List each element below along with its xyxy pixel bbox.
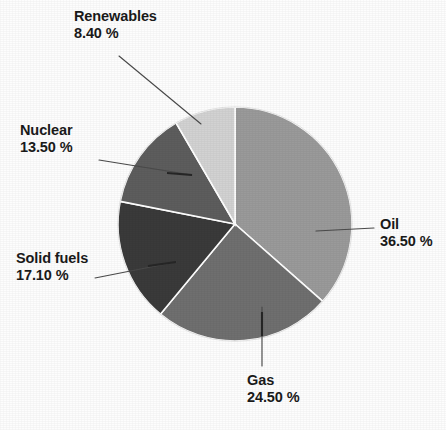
pie-label-renewables-name: Renewables (74, 8, 157, 25)
pie-chart-canvas (0, 0, 446, 430)
pie-label-gas-percent: 24.50 % (247, 389, 300, 406)
pie-label-oil-percent: 36.50 % (380, 233, 433, 250)
pie-label-gas: Gas 24.50 % (247, 372, 300, 406)
pie-label-nuclear-percent: 13.50 % (20, 139, 73, 156)
pie-label-nuclear-name: Nuclear (20, 122, 73, 139)
pie-label-nuclear: Nuclear 13.50 % (20, 122, 73, 156)
pie-label-oil: Oil 36.50 % (380, 216, 433, 250)
pie-label-solid-fuels-name: Solid fuels (16, 250, 88, 267)
pie-label-solid-fuels: Solid fuels 17.10 % (16, 250, 88, 284)
pie-label-solid-fuels-percent: 17.10 % (16, 267, 88, 284)
pie-label-renewables-percent: 8.40 % (74, 25, 157, 42)
leader-line-renewables (119, 56, 201, 124)
pie-label-oil-name: Oil (380, 216, 433, 233)
pie-slices (118, 107, 352, 341)
pie-label-gas-name: Gas (247, 372, 300, 389)
pie-chart-figure: Renewables 8.40 % Nuclear 13.50 % Solid … (0, 0, 446, 430)
pie-label-renewables: Renewables 8.40 % (74, 8, 157, 42)
